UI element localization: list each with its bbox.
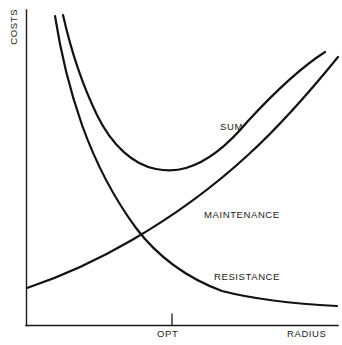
curve-label-resistance: RESISTANCE: [214, 272, 280, 282]
curve-sum: [63, 15, 325, 170]
curve-label-sum: SUM: [220, 122, 243, 132]
curve-resistance: [55, 16, 337, 306]
x-axis-label: RADIUS: [287, 329, 327, 339]
curve-label-maintenance: MAINTENANCE: [204, 210, 280, 220]
curve-maintenance: [27, 57, 338, 288]
cost-vs-radius-chart: COSTS OPT RADIUS SUM MAINTENANCE RESISTA…: [0, 0, 342, 345]
y-axis-label: COSTS: [9, 4, 19, 50]
x-axis-tick-label-opt: OPT: [157, 329, 178, 339]
chart-canvas: [0, 0, 342, 345]
